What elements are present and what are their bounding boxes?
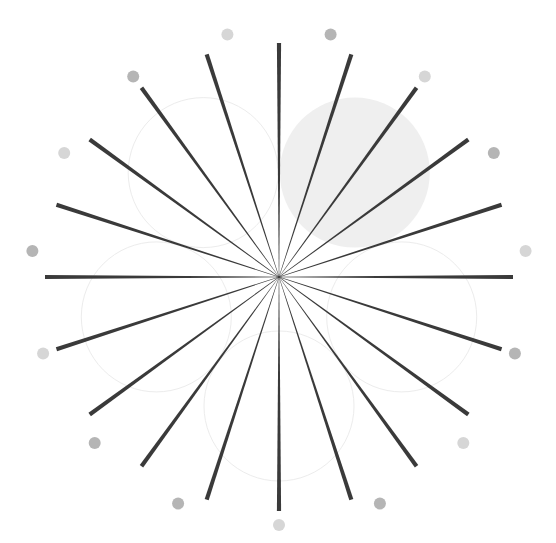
radial-diagram <box>0 0 556 543</box>
ray <box>140 86 279 277</box>
dot-light <box>520 245 532 257</box>
dot-light <box>419 70 431 82</box>
dot-dark <box>127 70 139 82</box>
ray <box>56 277 279 352</box>
ray <box>88 277 279 416</box>
radial-rays <box>45 43 513 511</box>
dot-light <box>37 348 49 360</box>
dot-dark <box>374 498 386 510</box>
diagram-canvas <box>0 0 556 543</box>
ray <box>277 277 281 511</box>
ray <box>88 138 279 277</box>
ray <box>279 277 470 416</box>
ray <box>45 275 279 279</box>
ray <box>140 277 279 468</box>
dot-light <box>457 437 469 449</box>
ray <box>205 277 280 500</box>
ray <box>279 277 354 500</box>
dot-dark <box>325 28 337 40</box>
ray <box>56 203 279 278</box>
dot-light <box>273 519 285 531</box>
ray <box>279 277 418 468</box>
ray <box>279 277 502 352</box>
dot-light <box>58 147 70 159</box>
dot-dark <box>509 348 521 360</box>
dot-light <box>221 28 233 40</box>
dot-dark <box>26 245 38 257</box>
dot-dark <box>488 147 500 159</box>
dot-dark <box>172 498 184 510</box>
ray <box>279 275 513 279</box>
ray <box>205 54 280 277</box>
dot-dark <box>89 437 101 449</box>
